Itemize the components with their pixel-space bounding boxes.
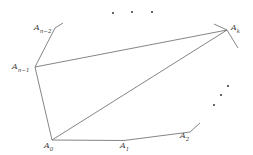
- ellipsis-dot: [220, 94, 222, 96]
- polygon-diagram: A0 A1 A2 Ak An−1 An−2: [0, 0, 253, 155]
- ellipsis-dot: [213, 104, 215, 106]
- edge-ak-stub-left: [214, 24, 227, 30]
- vertex-label-a0: A0: [44, 142, 53, 152]
- vertex-label-an-1: An−1: [12, 63, 29, 73]
- vertex-label-ak: Ak: [231, 24, 240, 34]
- vertex-label-a1: A1: [120, 142, 129, 152]
- ellipsis-dot: [112, 12, 114, 14]
- vertex-label-a2: A2: [180, 132, 189, 142]
- edge-a0-an1: [35, 67, 52, 140]
- ellipsis-dot: [131, 11, 133, 13]
- vertex-label-an-2: An−2: [34, 24, 51, 34]
- edge-a0-a1: [52, 140, 124, 141]
- edge-a2-stub: [190, 123, 200, 132]
- edge-an2-stub: [55, 23, 63, 28]
- ellipsis-dot: [227, 85, 229, 87]
- ellipsis-dot: [151, 11, 153, 13]
